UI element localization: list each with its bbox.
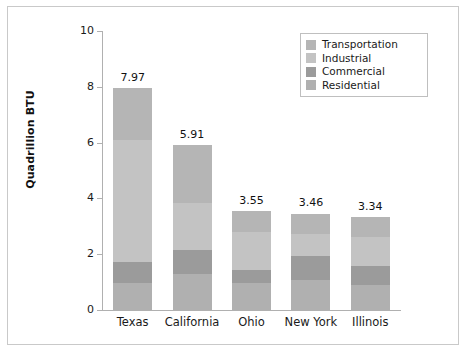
y-tick-label: 8 (66, 81, 94, 92)
y-tick-label: 6 (66, 137, 94, 148)
legend-swatch-icon (306, 53, 316, 63)
legend-item-label: Commercial (322, 66, 385, 77)
bar-total-label: 3.34 (340, 201, 400, 212)
y-tick-mark (97, 87, 102, 88)
bar-segment-industrial (232, 232, 271, 270)
y-tick-label: 2 (66, 248, 94, 259)
bar-segment-commercial (351, 266, 390, 285)
chart-legend: TransportationIndustrialCommercialReside… (300, 33, 428, 97)
y-tick-label: 4 (66, 192, 94, 203)
legend-swatch-icon (306, 67, 316, 77)
bar-segment-commercial (291, 256, 330, 280)
bar-segment-transportation (232, 211, 271, 232)
x-tick-label: Illinois (325, 316, 415, 329)
bar-segment-residential (291, 280, 330, 310)
chart-figure: 0246810 Quadrillion BTU TexasCaliforniaO… (0, 0, 466, 351)
x-axis-spine (102, 310, 401, 311)
legend-item-label: Transportation (322, 39, 398, 50)
bar-segment-commercial (173, 250, 212, 274)
stacked-bar (173, 145, 212, 310)
legend-swatch-icon (306, 80, 316, 90)
bar-segment-commercial (232, 270, 271, 283)
legend-item[interactable]: Industrial (306, 52, 422, 65)
bar-total-label: 3.55 (222, 195, 282, 206)
bar-segment-transportation (173, 145, 212, 203)
legend-item-label: Industrial (322, 53, 371, 64)
bar-segment-transportation (113, 88, 152, 140)
bar-group (173, 31, 212, 310)
y-axis-tick-labels: 0246810 (64, 0, 94, 351)
bar-segment-industrial (173, 203, 212, 250)
bar-group (232, 31, 271, 310)
bar-segment-industrial (113, 140, 152, 262)
y-tick-mark (97, 31, 102, 32)
y-tick-mark (97, 143, 102, 144)
bar-segment-commercial (113, 262, 152, 283)
y-tick-label: 0 (66, 304, 94, 315)
y-tick-mark (97, 198, 102, 199)
stacked-bar (113, 88, 152, 310)
bar-segment-residential (113, 283, 152, 310)
bar-segment-industrial (291, 234, 330, 256)
bar-total-label: 5.91 (162, 129, 222, 140)
legend-item[interactable]: Residential (306, 79, 422, 92)
stacked-bar (351, 217, 390, 310)
y-tick-mark (97, 254, 102, 255)
bar-segment-transportation (291, 214, 330, 235)
bar-segment-residential (173, 274, 212, 310)
stacked-bar (232, 211, 271, 310)
bar-segment-residential (232, 283, 271, 310)
bar-total-label: 3.46 (281, 197, 341, 208)
y-tick-label: 10 (66, 25, 94, 36)
y-axis-title: Quadrillion BTU (24, 80, 37, 200)
bar-segment-transportation (351, 217, 390, 238)
legend-item-label: Residential (322, 80, 380, 91)
legend-swatch-icon (306, 40, 316, 50)
legend-item[interactable]: Commercial (306, 65, 422, 78)
legend-item[interactable]: Transportation (306, 38, 422, 51)
bar-segment-residential (351, 285, 390, 310)
stacked-bar (291, 214, 330, 311)
y-tick-mark (97, 310, 102, 311)
bar-segment-industrial (351, 237, 390, 265)
bar-total-label: 7.97 (103, 72, 163, 83)
